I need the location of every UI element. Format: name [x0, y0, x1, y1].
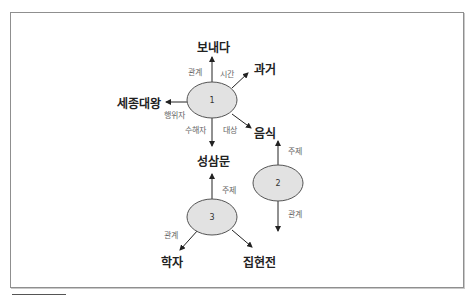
- node-sejong: 세종대왕: [117, 94, 161, 111]
- edge-label-gwangye-1: 관계: [188, 66, 202, 77]
- edge-label-suhaeja: 수해자: [185, 124, 206, 135]
- edge-label-haengwija: 행위자: [164, 109, 185, 120]
- semantic-network-graph: [0, 0, 472, 297]
- ellipse-3-label: 3: [209, 213, 214, 222]
- edge-label-juje-3: 주제: [222, 184, 236, 195]
- node-hakja: 학자: [161, 253, 183, 270]
- node-seongsammun: 성삼문: [197, 152, 230, 169]
- node-bonaeda: 보내다: [197, 38, 230, 55]
- edge-label-juje-2: 주제: [288, 145, 302, 156]
- node-eumsik: 음식: [254, 124, 276, 141]
- edge-label-gwangye-2: 관계: [288, 208, 302, 219]
- edge-label-gwangye-3: 관계: [164, 229, 178, 240]
- edge-1-to-gwageo: [232, 73, 248, 88]
- edge-3-to-hakja: [180, 230, 198, 250]
- node-jiphyeonjeon: 집현전: [243, 253, 276, 270]
- ellipse-1-label: 1: [209, 96, 214, 105]
- footnote-rule: [12, 294, 66, 295]
- node-gwageo: 과거: [254, 60, 276, 77]
- edge-label-daesang: 대상: [223, 124, 237, 135]
- ellipse-2-label: 2: [275, 179, 280, 188]
- edge-label-sigan: 시간: [220, 68, 234, 79]
- edge-3-to-jiphyeonjeon: [232, 230, 252, 247]
